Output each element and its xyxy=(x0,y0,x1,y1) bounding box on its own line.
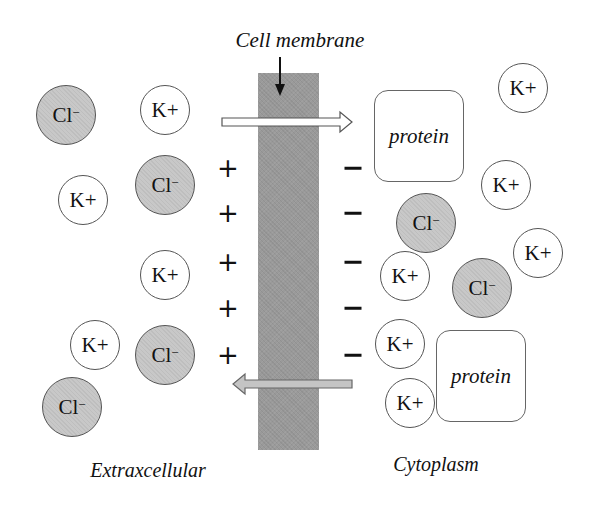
potassium-ion: K+ xyxy=(70,320,120,370)
cytoplasm-label: Cytoplasm xyxy=(393,453,479,476)
potassium-ion: K+ xyxy=(380,251,430,301)
positive-charge: + xyxy=(217,295,239,321)
potassium-ion: K+ xyxy=(140,85,190,135)
chloride-ion: Cl− xyxy=(452,258,512,318)
protein: protein xyxy=(374,90,464,182)
potassium-ion: K+ xyxy=(513,228,563,278)
chloride-ion: Cl− xyxy=(135,155,195,215)
membrane-pointer-arrow xyxy=(275,57,285,96)
chloride-ion: Cl− xyxy=(396,193,456,253)
efflux-arrow-right xyxy=(222,112,352,132)
negative-charge xyxy=(345,167,362,170)
positive-charge: + xyxy=(217,342,239,368)
protein: protein xyxy=(436,330,526,422)
potassium-ion: K+ xyxy=(58,175,108,225)
potassium-ion: K+ xyxy=(140,250,190,300)
negative-charge xyxy=(345,261,362,264)
chloride-ion: Cl− xyxy=(36,85,96,145)
potassium-ion: K+ xyxy=(375,319,425,369)
positive-charge: + xyxy=(217,200,239,226)
extracellular-label: Extraxcellular xyxy=(90,459,206,482)
influx-arrow-left xyxy=(233,374,352,394)
negative-charge xyxy=(345,307,362,310)
potassium-ion: K+ xyxy=(385,378,435,428)
positive-charge: + xyxy=(217,155,239,181)
negative-charge xyxy=(345,354,362,357)
chloride-ion: Cl− xyxy=(42,377,102,437)
positive-charge: + xyxy=(217,249,239,275)
potassium-ion: K+ xyxy=(481,160,531,210)
negative-charge xyxy=(345,212,362,215)
chloride-ion: Cl− xyxy=(135,325,195,385)
potassium-ion: K+ xyxy=(498,63,548,113)
